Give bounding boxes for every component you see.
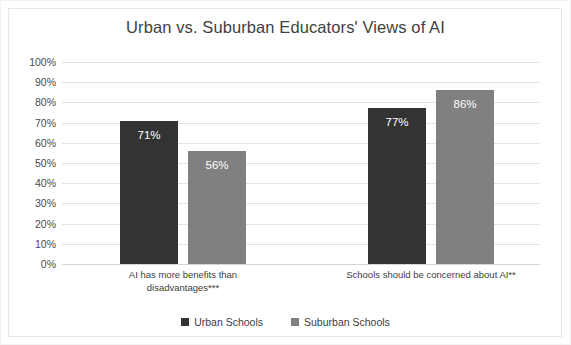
y-tick-label-60: 60% <box>10 137 56 149</box>
y-tick-label-40: 40% <box>10 177 56 189</box>
bar-suburban-1[interactable]: 86% <box>436 90 494 264</box>
bar-urban-1[interactable]: 77% <box>368 108 426 264</box>
gridline-0 <box>62 264 540 265</box>
y-tick-label-100: 100% <box>10 56 56 68</box>
bar-suburban-0[interactable]: 56% <box>188 151 246 264</box>
y-tick-label-80: 80% <box>10 96 56 108</box>
category-label-line: AI has more benefits than <box>63 268 303 281</box>
bar-value-label: 71% <box>120 129 178 141</box>
y-tick-label-10: 10% <box>10 238 56 250</box>
y-tick-label-0: 0% <box>10 258 56 270</box>
legend-item-suburban[interactable]: Suburban Schools <box>291 316 390 328</box>
category-label-line: disadvantages*** <box>63 281 303 294</box>
bar-value-label: 86% <box>436 98 494 110</box>
bar-urban-0[interactable]: 71% <box>120 121 178 264</box>
y-tick-label-30: 30% <box>10 197 56 209</box>
legend-item-urban[interactable]: Urban Schools <box>181 316 263 328</box>
bar-value-label: 56% <box>188 159 246 171</box>
chart-title: Urban vs. Suburban Educators' Views of A… <box>0 18 571 37</box>
category-label-1: Schools should be concerned about AI** <box>311 268 551 281</box>
y-axis-tick-labels: 100%90%80%70%60%50%40%30%20%10%0% <box>8 62 56 264</box>
category-label-0: AI has more benefits thandisadvantages**… <box>63 268 303 294</box>
gridline-90 <box>62 82 540 83</box>
y-tick-label-50: 50% <box>10 157 56 169</box>
plot-area: 71%56%77%86% <box>62 62 540 264</box>
chart-legend: Urban SchoolsSuburban Schools <box>0 316 571 328</box>
y-tick-label-20: 20% <box>10 218 56 230</box>
y-tick-label-90: 90% <box>10 76 56 88</box>
legend-label: Suburban Schools <box>304 316 390 328</box>
legend-swatch-icon <box>291 318 299 326</box>
gridline-100 <box>62 62 540 63</box>
legend-swatch-icon <box>181 318 189 326</box>
bar-value-label: 77% <box>368 116 426 128</box>
y-tick-label-70: 70% <box>10 117 56 129</box>
chart-container: Urban vs. Suburban Educators' Views of A… <box>0 0 571 345</box>
category-label-line: Schools should be concerned about AI** <box>311 268 551 281</box>
legend-label: Urban Schools <box>194 316 263 328</box>
